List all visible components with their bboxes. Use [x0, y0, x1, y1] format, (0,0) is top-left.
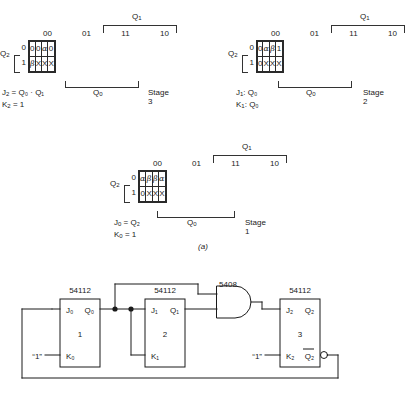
table-row: β X X X: [30, 57, 55, 72]
flipflop-2-number: 2: [163, 330, 168, 339]
col-headers-stage2: 00 01 11 10: [256, 29, 406, 38]
row-headers-stage2: 0 1: [246, 40, 254, 70]
col-header: 10: [145, 29, 184, 38]
q1-label-stage2: Q1: [360, 12, 370, 21]
eq-lhs-sub: 2: [7, 103, 10, 109]
kmap-cell: α: [41, 42, 47, 57]
stage-label-stage2: Stage 2: [363, 88, 384, 106]
q1-label-stage3: Q1: [132, 12, 142, 21]
equation-k1: K1: Q₀: [236, 100, 259, 109]
flipflop-1-number: 1: [78, 330, 83, 339]
row-header: 0: [246, 40, 254, 55]
kmap-cell: β: [30, 57, 36, 72]
kmap-cell: X: [276, 57, 282, 72]
eq-rhs: : Q₀: [245, 100, 259, 109]
table-row: 0 α β 1: [258, 42, 283, 57]
kmap-cell: α: [159, 172, 165, 187]
flipflop-2-part-number: 54112: [154, 286, 176, 295]
logic-one-input-k2: “1”: [252, 352, 262, 361]
q1-label-stage1: Q1: [242, 142, 252, 151]
kmap-cell: X: [146, 187, 152, 202]
q0-var-sub: 0: [99, 91, 102, 97]
stage-label-stage1: Stage 1: [245, 218, 266, 236]
q0-brace-stage2: [278, 81, 352, 88]
q0-var-sub: 0: [312, 91, 315, 97]
figure-caption: (a): [0, 242, 406, 251]
col-header: 11: [334, 29, 373, 38]
equation-k0: K0 = 1: [114, 230, 136, 239]
q0-brace-stage3: [65, 81, 139, 88]
flipflop-1-j-pin-label: J₀: [66, 306, 73, 315]
kmap-cell: β: [269, 42, 275, 57]
flipflop-3-number: 3: [298, 330, 303, 339]
kmap-grid-stage3: 0 0 α 0 β X X X: [28, 40, 56, 73]
equation-j1: J1: Q₀: [236, 88, 257, 97]
eq-lhs-sub: 2: [6, 91, 9, 97]
eq-rhs: = Q₀ · Q₁: [12, 88, 44, 97]
flipflop-2-q-pin-label: Q₁: [170, 306, 179, 315]
q1-var-sub: 1: [138, 15, 141, 21]
q0-label-stage1: Q0: [187, 218, 197, 227]
col-headers-stage1: 00 01 11 10: [138, 159, 294, 168]
stage-label-stage3: Stage 3: [148, 88, 169, 106]
kmap-cell: 0: [258, 57, 263, 72]
col-header: 01: [295, 29, 334, 38]
q1-var-sub: 1: [248, 145, 251, 151]
q2-label-stage1: Q2: [110, 179, 120, 188]
row-header: 1: [18, 55, 26, 70]
q0-var-sub: 0: [193, 221, 196, 227]
flipflop-3-part-number: 54112: [289, 286, 311, 295]
eq-lhs-sub: 0: [118, 221, 121, 227]
q2-label-stage2: Q2: [228, 49, 238, 58]
q2-label-stage3: Q2: [0, 49, 10, 58]
flipflop-3-j-pin-label: J₂: [286, 306, 293, 315]
kmap-cell: X: [159, 187, 165, 202]
and-gate-part-number: 5408: [219, 280, 237, 289]
flipflop-1-q-pin-label: Q₀: [84, 306, 94, 315]
kmap-cell: β: [146, 172, 152, 187]
q2-var-sub: 2: [116, 182, 119, 188]
kmap-cell: α: [263, 42, 269, 57]
kmap-cell: α: [140, 172, 146, 187]
flipflop-1-part-number: 54112: [69, 286, 91, 295]
and-gate-5408: [217, 286, 251, 318]
equation-j0: J0 = Q₂: [114, 218, 140, 227]
junction-dot: [112, 306, 117, 311]
q0-label-stage3: Q0: [93, 88, 103, 97]
kmap-grid-stage2: 0 α β 1 0 X X X: [256, 40, 284, 73]
eq-rhs: = 1: [13, 100, 24, 109]
q2-var-sub: 2: [6, 52, 9, 58]
eq-rhs: = Q₂: [124, 218, 140, 227]
col-header: 01: [67, 29, 106, 38]
equation-k2: K2 = 1: [2, 100, 24, 109]
kmap-cell: X: [269, 57, 275, 72]
kmap-cell: β: [152, 172, 158, 187]
row-headers-stage3: 0 1: [18, 40, 26, 70]
row-header: 0: [128, 170, 136, 185]
junction-dot: [128, 306, 133, 311]
table-row: α β β α: [140, 172, 166, 187]
q1-var-sub: 1: [366, 15, 369, 21]
kmap-cell: X: [41, 57, 47, 72]
flipflop-2-j-pin-label: J₁: [151, 306, 158, 315]
col-header: 00: [256, 29, 295, 38]
kmap-cell: 0: [258, 42, 263, 57]
table-row: 0 X X X: [258, 57, 283, 72]
kmap-cell: 1: [276, 42, 282, 57]
col-header: 10: [255, 159, 294, 168]
circuit-diagram: 54112 54112 54112 5408 J₀ Q₀ K₀ 1 J₁ Q₁ …: [0, 262, 406, 395]
kmap-cell: X: [35, 57, 41, 72]
kmap-grid-stage1: α β β α 0 X X X: [138, 170, 167, 203]
col-headers-stage3: 00 01 11 10: [28, 29, 184, 38]
flipflop-3-qbar-pin-label: Q₂: [305, 352, 314, 361]
table-row: 0 X X X: [140, 187, 166, 202]
flipflop-2-k-pin-label: K₁: [151, 352, 159, 361]
col-header: 00: [28, 29, 67, 38]
table-row: 0 0 α 0: [30, 42, 55, 57]
row-headers-stage1: 0 1: [128, 170, 136, 200]
eq-rhs: : Q₀: [243, 88, 257, 97]
flipflop-3-k-pin-label: K₂: [286, 352, 294, 361]
flipflop-3-q-pin-label: Q₂: [305, 306, 314, 315]
kmap-cell: X: [263, 57, 269, 72]
kmap-cell: X: [152, 187, 158, 202]
